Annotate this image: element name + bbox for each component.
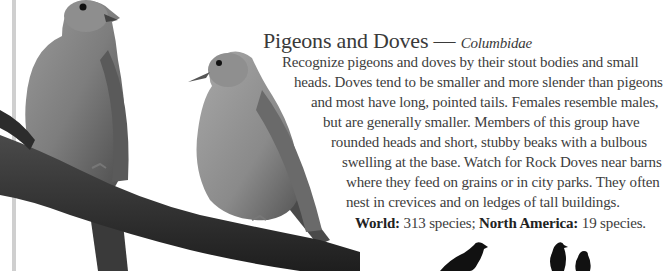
body-line: rounded heads and short, stubby beaks wi… (331, 133, 647, 151)
world-value: 313 species; (400, 215, 479, 231)
world-label: World: (355, 215, 400, 231)
body-line: Recognize pigeons and doves by their sto… (282, 53, 639, 71)
body-line: and most have long, pointed tails. Femal… (311, 93, 658, 111)
pigeon-silhouette-icon (440, 242, 488, 271)
section-title: Pigeons and Doves — Columbidae (263, 28, 532, 54)
body-line: nest in crevices and on ledges of tall b… (346, 193, 620, 211)
body-line: where they feed on grains or in city par… (346, 173, 660, 191)
north-america-label: North America: (479, 215, 578, 231)
species-count: World: 313 species; North America: 19 sp… (355, 214, 646, 232)
family-name: Columbidae (461, 35, 532, 51)
title-dash: — (428, 28, 460, 53)
title-text: Pigeons and Doves (263, 28, 428, 53)
dove-pair-silhouette-icon (550, 242, 591, 271)
body-line: swelling at the base. Watch for Rock Dov… (342, 153, 662, 171)
body-line: but are generally smaller. Members of th… (323, 113, 640, 131)
north-america-value: 19 species. (578, 215, 646, 231)
body-line: heads. Doves tend to be smaller and more… (294, 73, 663, 91)
bird-silhouettes (430, 235, 610, 271)
